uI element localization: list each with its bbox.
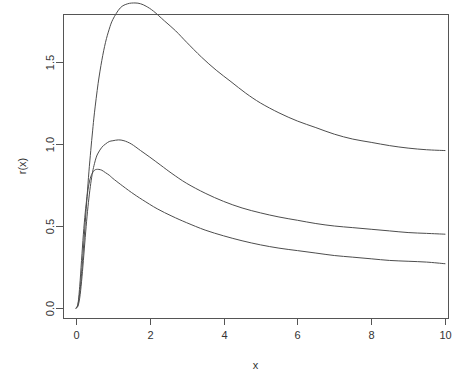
y-tick-label: 0.5: [44, 219, 56, 234]
y-tick-label: 1.0: [44, 137, 56, 152]
x-tick-label: 0: [73, 329, 79, 341]
x-tick-label: 2: [147, 329, 153, 341]
x-tick-label: 8: [368, 329, 374, 341]
chart-background: [0, 0, 467, 377]
line-chart: 0246810 0.00.51.01.5 x r(x): [0, 0, 467, 377]
x-tick-label: 10: [439, 329, 451, 341]
y-tick-label: 0.0: [44, 301, 56, 316]
chart-canvas: 0246810 0.00.51.01.5 x r(x): [0, 0, 467, 377]
x-tick-label: 4: [221, 329, 227, 341]
y-axis-title: r(x): [16, 158, 28, 175]
y-tick-label: 1.5: [44, 55, 56, 70]
x-tick-label: 6: [294, 329, 300, 341]
x-axis-title: x: [253, 359, 259, 371]
